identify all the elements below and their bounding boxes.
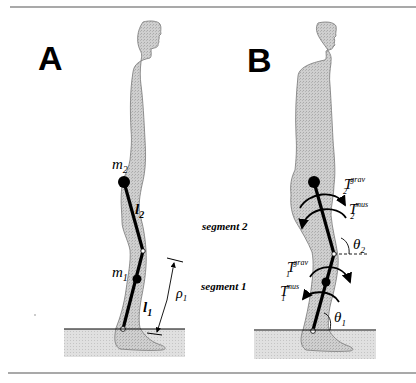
theta-1-label: θ1 <box>334 309 346 328</box>
rho-label: ρ1 <box>175 286 187 303</box>
mass-1-dot-a <box>133 275 142 284</box>
mass-2-label-a: m2 <box>112 156 128 175</box>
mass-2-dot-b <box>308 176 320 188</box>
mass-2-dot-a <box>118 176 130 188</box>
torque-t1-grav-label: Tgrav1 <box>286 258 308 279</box>
panel-b: B Tgrav2 Tmus2 Tgrav1 Tmus1 θ2 θ <box>247 22 376 359</box>
torque-t2-mus-label: Tmus2 <box>349 200 368 221</box>
theta-2-arc <box>341 238 349 254</box>
rho-top-tick <box>167 258 183 262</box>
speck <box>34 314 36 316</box>
mass-1-dot-b <box>322 278 331 287</box>
panel-b-label: B <box>247 41 272 79</box>
length-1-label-a: l1 <box>143 299 152 318</box>
rho-arrow-down <box>157 300 167 332</box>
panel-a: A m2 l2 m1 l1 ρ1 <box>38 21 187 357</box>
segment-2-label: segment 2 <box>201 220 248 232</box>
panel-a-label: A <box>38 39 63 77</box>
torque-t2-grav-label: Tgrav2 <box>343 175 365 196</box>
torque-t1-mus-label: Tmus1 <box>280 282 299 303</box>
inverted-pendulum-figure: A m2 l2 m1 l1 ρ1 segment 2 segment 1 <box>0 0 416 383</box>
knee-joint-a <box>141 249 145 253</box>
segment-1-label: segment 1 <box>200 280 247 292</box>
rho-arrow-up <box>167 263 174 300</box>
mass-1-label-a: m1 <box>112 264 128 283</box>
ankle-joint-b <box>311 329 316 334</box>
theta-2-label: θ2 <box>353 236 365 255</box>
knee-joint-b <box>332 252 336 256</box>
